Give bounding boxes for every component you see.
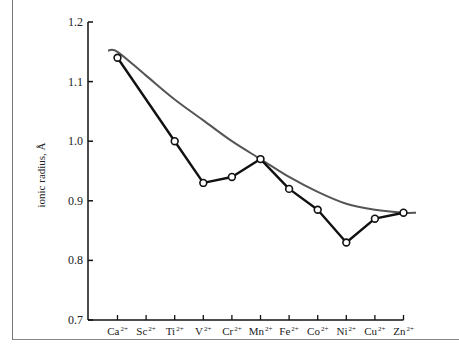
observed-radius-line [118, 58, 404, 243]
y-tick-label: 1.0 [68, 134, 83, 148]
y-tick-label: 1.2 [68, 15, 83, 29]
x-tick-label: Zn2+ [393, 325, 414, 337]
y-tick-label: 1.1 [68, 75, 83, 89]
data-point-marker [257, 156, 264, 163]
y-tick-label: 0.8 [68, 253, 83, 267]
x-tick-label: Sc2+ [136, 325, 156, 337]
y-axis: 0.70.80.91.01.11.2 [68, 15, 93, 327]
smooth-trend-curve [108, 50, 416, 213]
data-point-marker [343, 239, 350, 246]
data-point-marker [314, 206, 321, 213]
y-axis-title: ionic radius, Å [35, 142, 47, 207]
x-tick-label: Ti2+ [166, 325, 184, 337]
data-point-marker [372, 215, 379, 222]
data-point-marker [114, 54, 121, 61]
y-tick-label: 0.7 [68, 313, 83, 327]
x-tick-label: Fe2+ [279, 325, 299, 337]
x-tick-label: Cr2+ [222, 325, 242, 337]
x-tick-label: Ni2+ [337, 325, 357, 337]
x-tick-label: V2+ [195, 325, 211, 337]
x-tick-label: Mn2+ [249, 325, 273, 337]
x-tick-label: Ca2+ [107, 325, 128, 337]
data-point-marker [229, 174, 236, 181]
data-point-marker [200, 180, 207, 187]
y-tick-label: 0.9 [68, 194, 83, 208]
data-point-marker [171, 138, 178, 145]
x-tick-label: Co2+ [307, 325, 328, 337]
chart: 0.70.80.91.01.11.2 Ca2+Sc2+Ti2+V2+Cr2+Mn… [0, 0, 459, 344]
data-point-marker [286, 185, 293, 192]
x-tick-label: Cu2+ [364, 325, 385, 337]
series-layer [108, 50, 416, 246]
x-axis: Ca2+Sc2+Ti2+V2+Cr2+Mn2+Fe2+Co2+Ni2+Cu2+Z… [88, 315, 414, 337]
data-point-marker [400, 209, 407, 216]
